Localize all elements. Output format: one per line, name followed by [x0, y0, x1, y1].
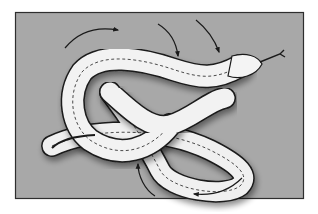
snake-diagram — [0, 0, 318, 214]
